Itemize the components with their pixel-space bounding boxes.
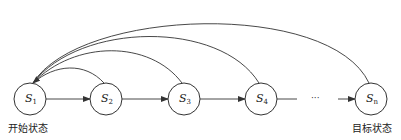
ellipsis: ··· (311, 93, 320, 103)
goal-state-label: 目标状态 (352, 120, 392, 135)
arc-s3-s1 (33, 51, 182, 83)
arc-sn-s1 (33, 24, 369, 83)
state-diagram: ··· S1 S2 S3 S4 Sn (0, 0, 401, 140)
start-state-label: 开始状态 (8, 120, 48, 135)
